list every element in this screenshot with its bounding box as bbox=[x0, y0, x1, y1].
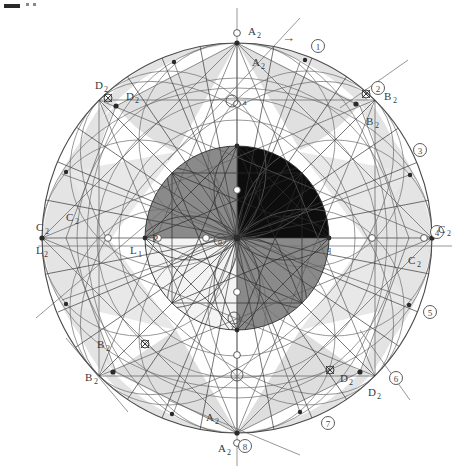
svg-text:2: 2 bbox=[135, 96, 139, 105]
svg-text:2: 2 bbox=[94, 377, 98, 386]
svg-text:2: 2 bbox=[349, 378, 353, 387]
marker-6-label: 6 bbox=[394, 374, 399, 384]
svg-text:2: 2 bbox=[104, 85, 108, 94]
marker-1: 1 bbox=[312, 40, 325, 53]
svg-text:2: 2 bbox=[261, 62, 265, 71]
label-q: q bbox=[327, 245, 331, 254]
direction-arrow: → bbox=[282, 30, 295, 45]
label-o: o bbox=[218, 237, 222, 246]
label-l1: L bbox=[130, 244, 137, 256]
marker-7: 7 bbox=[322, 417, 335, 430]
marker-5: 5 bbox=[424, 306, 437, 319]
svg-text:2: 2 bbox=[375, 121, 379, 130]
marker-3: 3 bbox=[414, 144, 427, 157]
label-d2-lr-outer: D bbox=[368, 386, 376, 398]
label-b2-ll-inner: B bbox=[97, 338, 104, 350]
label-d2-ul-inner: D bbox=[126, 90, 134, 102]
svg-text:2: 2 bbox=[377, 392, 381, 401]
label-l2: L bbox=[36, 244, 43, 256]
marker-2: 2 bbox=[372, 82, 385, 95]
svg-text:2: 2 bbox=[393, 96, 397, 105]
label-c2-left-inner: C bbox=[66, 211, 73, 223]
geometric-construction-svg: 1 2 3 4 5 6 7 8 A2 A2 D2 D2 B2 B2 C2 C2 … bbox=[0, 0, 471, 473]
svg-text:2: 2 bbox=[44, 250, 48, 259]
corner-mark bbox=[4, 3, 36, 8]
marker-3-label: 3 bbox=[418, 146, 423, 156]
label-c2-right-inner: C bbox=[408, 254, 415, 266]
label-a2-bot-inner: A bbox=[206, 411, 214, 423]
label-a: a bbox=[243, 98, 247, 107]
label-d2-ul-outer: D bbox=[95, 79, 103, 91]
marker-2-label: 2 bbox=[376, 84, 381, 94]
marker-5-label: 5 bbox=[428, 308, 433, 318]
svg-text:2: 2 bbox=[447, 229, 451, 238]
marker-6: 6 bbox=[390, 372, 403, 385]
label-c2-left-outer: C bbox=[36, 221, 43, 233]
svg-text:1: 1 bbox=[138, 250, 142, 259]
label-b2-ur-outer: B bbox=[384, 90, 391, 102]
svg-text:2: 2 bbox=[257, 31, 261, 40]
svg-text:2: 2 bbox=[215, 417, 219, 426]
label-d2-lr-inner: D bbox=[340, 372, 348, 384]
label-a2-top-outer: A bbox=[248, 25, 256, 37]
label-b2-ur-inner: B bbox=[366, 115, 373, 127]
marker-1-label: 1 bbox=[316, 42, 321, 52]
marker-8-label: 8 bbox=[243, 442, 248, 452]
label-a2-top-inner: A bbox=[252, 56, 260, 68]
svg-text:2: 2 bbox=[106, 344, 110, 353]
svg-text:2: 2 bbox=[75, 217, 79, 226]
svg-text:2: 2 bbox=[417, 260, 421, 269]
diagram-canvas: 1 2 3 4 5 6 7 8 A2 A2 D2 D2 B2 B2 C2 C2 … bbox=[0, 0, 471, 473]
label-p: P bbox=[152, 232, 158, 244]
marker-8: 8 bbox=[239, 440, 252, 453]
label-b2-ll-outer: B bbox=[85, 371, 92, 383]
label-c2-right-outer: C bbox=[438, 223, 445, 235]
marker-7-label: 7 bbox=[326, 419, 331, 429]
label-z: z bbox=[231, 323, 235, 332]
svg-text:2: 2 bbox=[45, 227, 49, 236]
svg-text:2: 2 bbox=[227, 448, 231, 457]
label-a2-bot-outer: A bbox=[218, 442, 226, 454]
